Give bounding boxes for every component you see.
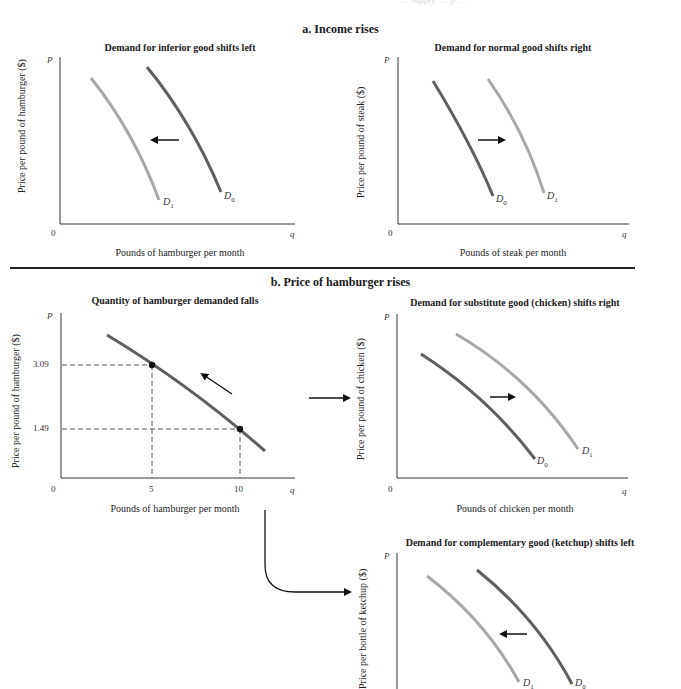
panel-inferior-graphics xyxy=(60,57,295,224)
origin-hamburger: 0 xyxy=(51,484,56,494)
origin-normal: 0 xyxy=(388,228,393,238)
x-axis-label-inferior: Pounds of hamburger per month xyxy=(60,247,300,258)
x-axis-label-substitute: Pounds of chicken per month xyxy=(390,503,640,514)
origin-substitute: 0 xyxy=(388,484,393,494)
x-tick-5: 5 xyxy=(149,484,154,494)
curve-label-d1: D1 xyxy=(547,190,558,204)
y-axis-label-complement: Price per bottle of ketchup ($) xyxy=(357,569,368,689)
figure-graphics xyxy=(0,0,681,689)
y-axis-label-normal: Price per pound of steak ($) xyxy=(355,87,366,198)
curve-label-d0: D0 xyxy=(575,677,586,689)
y-tick-1-49: 1.49 xyxy=(33,423,49,433)
demand-curve-d0 xyxy=(147,67,221,192)
y-axis-label-substitute: Price per pound of chicken ($) xyxy=(355,338,366,460)
y-axis-label-hamburger: Price per pound of hamburger ($) xyxy=(10,334,21,468)
y-axis-symbol-substitute: P xyxy=(384,312,390,322)
demand-curve-d0 xyxy=(477,570,572,684)
section-b-title: b. Price of hamburger rises xyxy=(0,275,681,290)
panel-title-complement: Demand for complementary good (ketchup) … xyxy=(390,537,650,548)
panel-complement-graphics xyxy=(397,553,572,689)
x-axis-symbol-substitute: q xyxy=(622,486,627,496)
panel-title-inferior: Demand for inferior good shifts left xyxy=(60,42,300,53)
connector-arrow-to-ketchup xyxy=(265,510,350,592)
y-axis-symbol-normal: P xyxy=(384,55,390,65)
y-axis-symbol-hamburger: P xyxy=(47,311,53,321)
panel-title-hamburger: Quantity of hamburger demanded falls xyxy=(50,295,300,306)
curve-label-d1: D1 xyxy=(582,445,593,459)
x-axis-symbol-normal: q xyxy=(622,229,627,239)
curve-label-d0: D0 xyxy=(537,455,548,469)
demand-curve-d1 xyxy=(488,79,544,193)
y-tick-3-09: 3.09 xyxy=(33,359,49,369)
curve-label-d0: D0 xyxy=(496,193,507,207)
y-axis-label-inferior: Price per pound of hamburger ($) xyxy=(16,59,27,193)
y-axis-symbol-inferior: P xyxy=(47,55,53,65)
y-axis-symbol-complement: P xyxy=(384,551,390,561)
x-axis-symbol-inferior: q xyxy=(290,229,295,239)
point-10-1-49 xyxy=(237,426,243,432)
x-axis-label-normal: Pounds of steak per month xyxy=(398,247,628,258)
panel-title-substitute: Demand for substitute good (chicken) shi… xyxy=(390,297,640,308)
demand-curve-d0 xyxy=(433,81,493,196)
demand-curve-d1 xyxy=(91,78,159,200)
panel-normal-graphics xyxy=(398,57,629,224)
x-axis-symbol-hamburger: q xyxy=(290,485,295,495)
demand-curve-d1 xyxy=(456,334,578,449)
demand-curve-d0 xyxy=(421,354,535,459)
curve-label-d1: D1 xyxy=(523,677,534,689)
demand-curve-d1 xyxy=(427,576,519,682)
panel-substitute-graphics xyxy=(397,314,628,478)
curve-label-d1: D1 xyxy=(163,196,174,210)
demand-curve xyxy=(107,335,265,451)
x-tick-10: 10 xyxy=(234,484,243,494)
panel-hamburger-graphics xyxy=(61,313,295,478)
movement-arrow xyxy=(202,374,232,394)
origin-inferior: 0 xyxy=(51,228,56,238)
x-axis-label-hamburger: Pounds of hamburger per month xyxy=(50,503,300,514)
curve-label-d0: D0 xyxy=(224,190,235,204)
header-fragment: … supply, … p … xyxy=(400,0,466,5)
point-5-3-09 xyxy=(149,362,155,368)
section-a-title: a. Income rises xyxy=(0,22,681,37)
panel-title-normal: Demand for normal good shifts right xyxy=(398,42,628,53)
